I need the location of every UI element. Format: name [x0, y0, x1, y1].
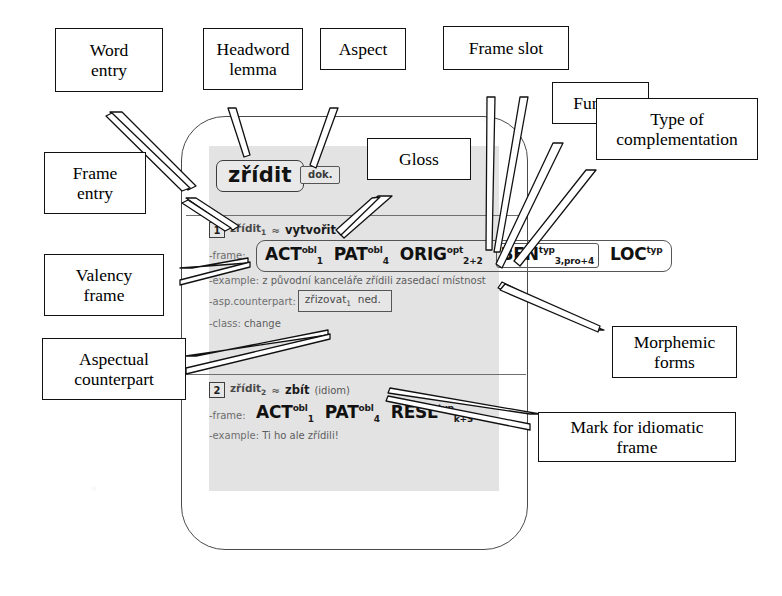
example-text-1: z původní kanceláře zřídili zasedací mís…: [262, 275, 486, 286]
frame-label-2: -frame:: [209, 410, 256, 421]
gloss-text-1: vytvořit: [285, 223, 336, 237]
frame-slot-act[interactable]: ACTobl1: [265, 244, 323, 266]
type-of-complementation-orig: opt: [447, 245, 463, 255]
callout-aspectual-counterpart-label: Aspectual counterpart: [74, 349, 154, 390]
callout-aspectual-counterpart[interactable]: Aspectual counterpart: [42, 338, 186, 400]
example-row-2: -example: Ti ho ale zřídili!: [209, 430, 481, 441]
callout-frame-entry[interactable]: Frame entry: [44, 152, 146, 214]
callout-frame-entry-label: Frame entry: [73, 163, 118, 204]
frame-slot-act-2[interactable]: ACTobl1: [256, 402, 314, 424]
functor-pat-2: PAT: [325, 402, 359, 422]
sense-lemma-text-1: zřídit: [230, 222, 261, 234]
approx-sign-1: ≈: [271, 224, 280, 236]
type-of-complementation-loc: typ: [647, 245, 663, 255]
morphemic-form-pat: 4: [383, 256, 389, 266]
sense-number-2: 2: [209, 382, 225, 398]
example-label-1: -example:: [209, 275, 259, 286]
frame-slot-orig[interactable]: ORIGopt2+2: [400, 244, 483, 266]
callout-valency-frame-label: Valency frame: [76, 265, 132, 306]
callout-aspect-label: Aspect: [339, 39, 388, 59]
functor-orig: ORIG: [400, 244, 447, 264]
morphemic-form-act-2: 1: [308, 414, 314, 424]
type-of-complementation-pat: obl: [368, 245, 383, 255]
headword-lemma-box[interactable]: zřídit: [216, 160, 304, 192]
callout-aspect[interactable]: Aspect: [320, 28, 406, 70]
frame-slot-resl[interactable]: RESLtypk+3: [391, 402, 473, 424]
frame-slot-ben[interactable]: BENtyp3,pro+4: [496, 243, 599, 268]
frame-slot-loc[interactable]: LOCtyp: [610, 244, 663, 264]
functor-loc: LOC: [610, 244, 647, 264]
frame-label-1: -frame:: [209, 250, 256, 261]
type-of-complementation-pat-2: obl: [359, 403, 374, 413]
functor-pat: PAT: [334, 244, 368, 264]
sense-lemma-text-2: zřídit: [230, 382, 261, 394]
sense-lemma-index-1: 1: [261, 229, 266, 238]
morphemic-form-act: 1: [317, 256, 323, 266]
morphemic-form-orig: 2+2: [463, 256, 482, 266]
callout-headword-lemma[interactable]: Headword lemma: [203, 28, 303, 90]
callout-word-entry-label: Word entry: [90, 40, 128, 81]
frame-slot-pat[interactable]: PATobl4: [334, 244, 389, 266]
callout-frame-slot[interactable]: Frame slot: [443, 26, 569, 70]
sense-number-1: 1: [209, 222, 225, 238]
valency-frame-1[interactable]: ACTobl1 PATobl4 ORIGopt2+2 BENtyp3,pro+4…: [256, 240, 672, 272]
aspectual-counterpart-box-1[interactable]: zřizovat1 ned.: [298, 290, 392, 312]
example-text-2: Ti ho ale zřídili!: [262, 430, 338, 441]
callout-morphemic-forms[interactable]: Morphemic forms: [612, 326, 737, 378]
class-label-1: -class:: [209, 318, 241, 329]
valency-frame-2[interactable]: ACTobl1 PATobl4 RESLtypk+3: [256, 400, 481, 427]
sense-lemma-2: zřídit2: [230, 382, 266, 397]
aspect-text: dok.: [308, 169, 332, 180]
counterpart-label-1: -asp.counterpart:: [209, 296, 296, 307]
type-of-complementation-act: obl: [302, 245, 317, 255]
counterpart-index-1: 1: [346, 299, 351, 308]
frame-entry-1[interactable]: 1 zřídit1 ≈ vytvořit -frame: ACTobl1 PAT…: [209, 222, 672, 329]
callout-valency-frame[interactable]: Valency frame: [44, 254, 164, 316]
type-of-complementation-ben: typ: [539, 245, 555, 255]
figure-canvas: zřídit dok. 1 zřídit1 ≈ vytvořit -frame:…: [0, 0, 782, 596]
frame-entry-2[interactable]: 2 zřídit2 ≈ zbít (idiom) -frame: ACTobl1…: [209, 382, 481, 441]
valency-frame-row-1: -frame: ACTobl1 PATobl4 ORIGopt2+2 BENty…: [209, 240, 672, 272]
type-of-complementation-resl: typ: [438, 403, 454, 413]
callout-type-of-complementation[interactable]: Type of complementation: [596, 98, 758, 160]
callout-morphemic-forms-label: Morphemic forms: [634, 332, 716, 373]
morphemic-form-ben: 3,pro+4: [555, 256, 594, 266]
class-row-1: -class: change: [209, 318, 672, 329]
example-label-2: -example:: [209, 430, 259, 441]
counterpart-aspect-1: ned.: [358, 293, 381, 305]
counterpart-lemma-1: zřizovat: [305, 293, 346, 305]
callout-frame-slot-label: Frame slot: [469, 38, 543, 58]
sense-header-1: 1 zřídit1 ≈ vytvořit: [209, 222, 672, 238]
sense-lemma-index-2: 2: [261, 389, 266, 398]
morphemic-form-pat-2: 4: [374, 414, 380, 424]
frame-entry-divider: [186, 374, 526, 375]
sense-header-2: 2 zřídit2 ≈ zbít (idiom): [209, 382, 481, 398]
headword-lemma-text: zřídit: [228, 163, 292, 187]
example-row-1: -example: z původní kanceláře zřídili za…: [209, 275, 672, 286]
gloss-text-2: zbít: [285, 383, 309, 397]
idiomatic-frame-mark: (idiom): [314, 385, 350, 396]
aspectual-counterpart-row-1: -asp.counterpart: zřizovat1 ned.: [209, 290, 672, 312]
type-of-complementation-act-2: obl: [293, 403, 308, 413]
headword-divider: [186, 215, 526, 216]
callout-mark-for-idiomatic-frame[interactable]: Mark for idiomatic frame: [538, 412, 736, 462]
valency-frame-row-2: -frame: ACTobl1 PATobl4 RESLtypk+3: [209, 400, 481, 427]
functor-resl: RESL: [391, 402, 438, 422]
callout-mark-for-idiomatic-frame-label: Mark for idiomatic frame: [570, 417, 703, 458]
callout-word-entry[interactable]: Word entry: [55, 28, 163, 92]
callout-gloss[interactable]: Gloss: [367, 138, 471, 180]
functor-ben: BEN: [501, 244, 539, 264]
approx-sign-2: ≈: [271, 384, 280, 396]
callout-type-of-complementation-label: Type of complementation: [616, 109, 738, 150]
functor-act: ACT: [265, 244, 302, 264]
frame-slot-pat-2[interactable]: PATobl4: [325, 402, 380, 424]
callout-headword-lemma-label: Headword lemma: [217, 39, 290, 80]
aspect-box[interactable]: dok.: [300, 166, 340, 184]
callout-gloss-label: Gloss: [399, 149, 439, 169]
sense-lemma-1: zřídit1: [230, 222, 266, 237]
class-value-1: change: [244, 318, 281, 329]
functor-act-2: ACT: [256, 402, 293, 422]
morphemic-form-resl: k+3: [454, 414, 473, 424]
